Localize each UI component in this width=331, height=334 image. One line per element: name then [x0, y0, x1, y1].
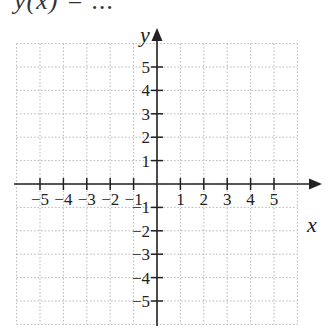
x-tick-label: −5: [31, 190, 49, 209]
x-tick-label: 3: [223, 190, 232, 209]
y-axis-arrow-icon: [152, 28, 163, 41]
y-tick-label: 1: [142, 152, 151, 171]
y-tick-label: 2: [142, 128, 151, 147]
x-tick-label: 1: [176, 190, 185, 209]
y-tick-label: 5: [142, 58, 151, 77]
x-tick-label: 4: [246, 190, 255, 209]
coordinate-grid: −5−4−3−2−11234554321−1−2−3−4−5 x y: [0, 0, 331, 334]
y-tick-label: 3: [142, 105, 151, 124]
y-axis-label: y: [138, 22, 150, 47]
y-tick-label: −5: [132, 292, 150, 311]
y-tick-label: −1: [132, 198, 150, 217]
x-axis-arrow-icon: [309, 179, 322, 190]
y-tick-label: −4: [132, 269, 151, 288]
y-tick-label: −3: [132, 245, 150, 264]
y-tick-label: −2: [132, 222, 150, 241]
x-tick-label: 2: [200, 190, 209, 209]
x-tick-label: −3: [78, 190, 96, 209]
x-tick-label: −4: [54, 190, 73, 209]
x-axis-label: x: [306, 212, 317, 237]
y-tick-label: 4: [142, 81, 151, 100]
x-tick-label: 5: [270, 190, 279, 209]
x-tick-label: −2: [101, 190, 119, 209]
